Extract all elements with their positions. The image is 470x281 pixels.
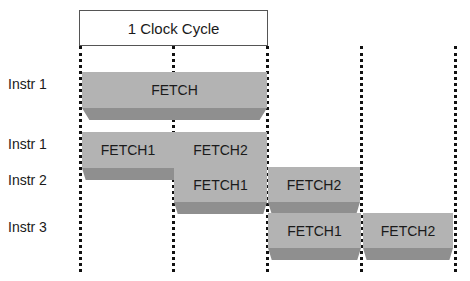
- block-label: FETCH1: [287, 223, 341, 239]
- fetch1-block-instr-3: FETCH1: [268, 213, 361, 260]
- fetch2-block-instr-3: FETCH2: [363, 213, 453, 260]
- fetch1-block-instr-1: FETCH1: [82, 132, 174, 180]
- row-label-instr-1: Instr 1: [8, 76, 47, 92]
- fetch1-block-instr-2: FETCH1: [174, 167, 267, 214]
- fetch-block: FETCH: [82, 72, 267, 120]
- block-label: FETCH2: [193, 142, 247, 158]
- block-label: FETCH1: [193, 177, 247, 193]
- row-label-instr-2: Instr 2: [8, 172, 47, 188]
- fetch2-block-instr-2: FETCH2: [268, 167, 360, 214]
- row-label-instr-1-pipelined: Instr 1: [8, 136, 47, 152]
- block-label: FETCH2: [381, 223, 435, 239]
- block-label: FETCH2: [287, 177, 341, 193]
- fetch2-block-instr-1: FETCH2: [174, 132, 267, 168]
- row-label-instr-3: Instr 3: [8, 219, 47, 235]
- block-label: FETCH: [151, 82, 198, 98]
- cycle-boundary-line: [454, 46, 457, 272]
- clock-cycle-box: 1 Clock Cycle: [79, 10, 268, 46]
- clock-cycle-label: 1 Clock Cycle: [128, 20, 220, 37]
- block-label: FETCH1: [101, 142, 155, 158]
